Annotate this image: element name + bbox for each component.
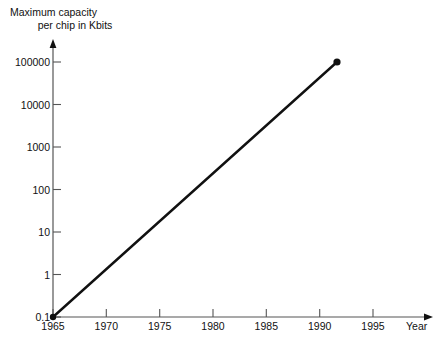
data-point-marker-end [333, 58, 340, 65]
x-tick-label-1995: 1995 [361, 320, 384, 332]
y-axis-arrowhead-icon [50, 39, 57, 48]
x-tick-label-1965: 1965 [41, 320, 64, 332]
x-axis-caption: Year [406, 320, 427, 332]
y-tick-label-10000: 10000 [21, 99, 50, 111]
x-tick-label-1980: 1980 [201, 320, 224, 332]
x-tick-label-1975: 1975 [148, 320, 171, 332]
x-tick-marks [53, 309, 373, 317]
x-tick-label-1970: 1970 [95, 320, 118, 332]
x-tick-label-1990: 1990 [308, 320, 331, 332]
y-tick-marks [53, 62, 61, 317]
y-tick-label-1000: 1000 [27, 141, 50, 153]
y-tick-label-100000: 100000 [15, 56, 50, 68]
y-tick-labels: 100000 10000 1000 100 10 1 0.1 [0, 0, 50, 354]
chart-svg [0, 0, 448, 354]
y-tick-label-10: 10 [38, 226, 50, 238]
y-tick-label-100: 100 [32, 184, 50, 196]
data-line-series-1 [53, 62, 337, 317]
x-tick-label-1985: 1985 [255, 320, 278, 332]
chart-canvas: Maximum capacity per chip in Kbits [0, 0, 448, 354]
y-tick-label-1: 1 [44, 269, 50, 281]
